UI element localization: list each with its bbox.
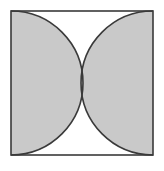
geometry-figure: Square with two inward semicircles A squ… bbox=[0, 0, 164, 171]
geometry-diagram: Square with two inward semicircles A squ… bbox=[0, 0, 164, 171]
